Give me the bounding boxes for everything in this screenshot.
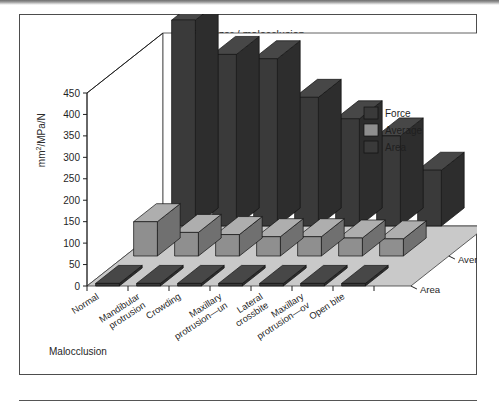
y-tick-label: 0 [74, 281, 80, 292]
y-tick-label: 200 [63, 195, 80, 206]
bar-force-3 [295, 79, 342, 226]
depth-axis-label-area: Area [420, 284, 441, 295]
depth-tick-mark [411, 286, 417, 289]
legend-label-area: Area [385, 142, 407, 153]
x-category-label-0: Normal [70, 291, 101, 316]
x-category-label-1: Mandibularprotrusion [98, 291, 148, 333]
figure-bottom-rule [19, 400, 477, 401]
x-category-label-2: Crowding [144, 291, 182, 321]
y-tick-label: 400 [63, 109, 80, 120]
scan-artifact-band [0, 0, 499, 5]
bar-force-4-side [359, 101, 382, 226]
bar-force-1 [213, 36, 260, 226]
x-category-label-4: Lateralcrossbite [228, 291, 270, 328]
bar-force-0 [172, 14, 219, 226]
y-tick-label: 100 [63, 238, 80, 249]
y-tick-label: 250 [63, 173, 80, 184]
x-axis-name: Malocclusion [49, 346, 107, 357]
bar-area-0-front [96, 283, 120, 286]
bar-average-0-front [134, 222, 158, 256]
chart-scene: 050100150200250300350400450NormalMandibu… [19, 14, 477, 375]
legend-swatch-force [364, 107, 378, 119]
x-category-label-6: Open bite [307, 291, 346, 321]
figure-page: Occluzer / malocclusion mm2/MPa/N 050100… [0, 0, 499, 420]
bar-area-5-front [301, 283, 325, 286]
bar-average-6-front [380, 239, 404, 256]
bar-force-1-side [236, 36, 259, 226]
bar-area-3-front [219, 283, 243, 286]
bar-area-2-front [178, 283, 202, 286]
bar-average-5-front [339, 238, 363, 256]
y-tick-label: 350 [63, 130, 80, 141]
bar-area-1-front [137, 283, 161, 286]
bar-force-0-front [172, 20, 196, 226]
y-tick-label: 50 [69, 259, 81, 270]
chart-stage: Occluzer / malocclusion mm2/MPa/N 050100… [19, 14, 477, 375]
bar-force-4 [336, 101, 383, 226]
y-tick-label: 150 [63, 216, 80, 227]
bar-force-3-side [318, 79, 341, 226]
legend-swatch-area [364, 141, 378, 153]
y-tick-label: 450 [63, 88, 80, 99]
legend-swatch-average [364, 124, 378, 136]
x-category-label-line: Open bite [307, 291, 346, 321]
bar-force-0-side [195, 14, 218, 226]
x-category-label-line: Crowding [144, 291, 182, 321]
legend-label-force: Force [385, 108, 411, 119]
depth-axis-label-average: Average [458, 254, 477, 265]
bar-area-6-front [342, 283, 366, 286]
y-tick-label: 300 [63, 152, 80, 163]
bar-force-2-side [277, 41, 300, 226]
x-category-label-line: Normal [70, 291, 101, 316]
bar-force-2 [254, 41, 301, 226]
bar-area-4-front [260, 283, 284, 286]
legend-label-average: Average [385, 125, 423, 136]
depth-tick-mark [449, 256, 455, 259]
